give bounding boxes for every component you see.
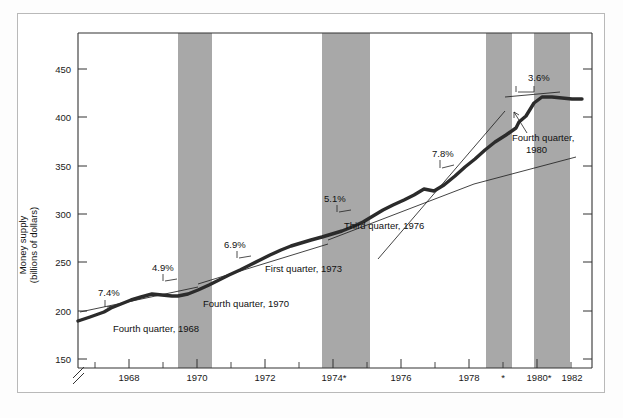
rate-label-6-9: 6.9%: [224, 239, 246, 250]
axis-break-icon: [73, 367, 84, 384]
x-tick-label: *: [501, 372, 505, 383]
recession-band: [178, 33, 212, 368]
point-label-1970: Fourth quarter, 1970: [203, 298, 289, 309]
recession-band: [486, 33, 512, 368]
rate-label-4-9: 4.9%: [152, 262, 174, 273]
y-axis-title: Money supply (billions of dollars): [17, 207, 39, 284]
x-tick-label: 1970: [186, 372, 207, 383]
x-axis-tick-labels: 1968 1970 1972 1974* 1976 1978 * 1980* 1…: [118, 372, 582, 383]
point-label-1976: Third quarter, 1976: [344, 220, 424, 231]
y-axis-title-line1: Money supply: [17, 215, 28, 274]
point-label-1980-line1: Fourth quarter,: [512, 132, 574, 143]
rate-label-3-6: 3.6%: [528, 72, 550, 83]
recession-bands: [178, 33, 570, 368]
point-label-1968: Fourth quarter, 1968: [113, 323, 199, 334]
y-axis-title-line2: (billions of dollars): [28, 207, 39, 284]
y-tick-label: 350: [55, 161, 71, 172]
recession-band: [534, 33, 570, 368]
y-tick-label: 150: [55, 354, 71, 365]
y-axis-tick-labels: 450 400 350 300 250 200 150: [55, 64, 71, 365]
y-tick-label: 400: [55, 112, 71, 123]
y-tick-label: 200: [55, 306, 71, 317]
x-tick-label: 1982: [561, 372, 582, 383]
rate-label-7-8: 7.8%: [432, 148, 454, 159]
x-tick-label: 1978: [458, 372, 479, 383]
point-label-1980-line2: 1980: [526, 144, 547, 155]
point-arrow-1980: [514, 112, 519, 118]
rate-label-5-1: 5.1%: [324, 193, 346, 204]
x-tick-label: 1980*: [527, 372, 552, 383]
rate-label-7-4: 7.4%: [98, 287, 120, 298]
x-tick-label: 1976: [390, 372, 411, 383]
point-label-1973: First quarter, 1973: [265, 263, 342, 274]
y-tick-label: 300: [55, 209, 71, 220]
y-tick-label: 250: [55, 257, 71, 268]
figure-root: 450 400 350 300 250 200 150 Money supply…: [0, 0, 623, 418]
y-tick-label: 450: [55, 64, 71, 75]
x-tick-label: 1972: [254, 372, 275, 383]
money-supply-chart: 450 400 350 300 250 200 150 Money supply…: [0, 0, 623, 418]
x-tick-label: 1974*: [322, 372, 347, 383]
x-tick-label: 1968: [118, 372, 139, 383]
